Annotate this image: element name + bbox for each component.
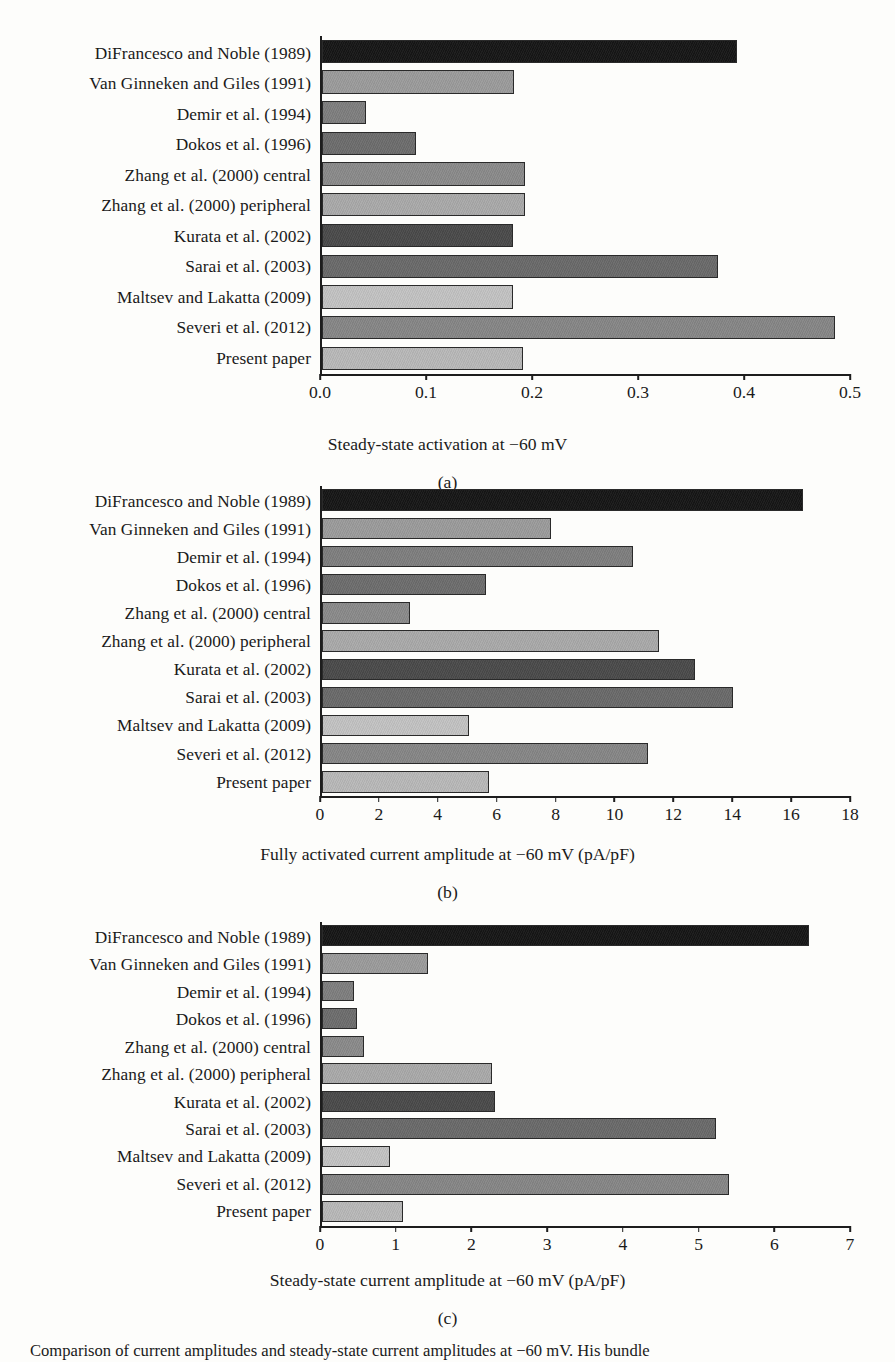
bar-row (322, 1115, 850, 1143)
axis-tick (378, 796, 380, 802)
axis-tick-label: 0.1 (415, 382, 437, 403)
bar-row (322, 542, 850, 570)
category-label: Zhang et al. (2000) central (0, 1034, 320, 1061)
bar-row (322, 712, 850, 740)
axis-tick (496, 796, 498, 802)
category-label: Kurata et al. (2002) (0, 656, 320, 684)
category-labels-b: DiFrancesco and Noble (1989)Van Ginneken… (0, 486, 320, 796)
axis-tick (471, 1226, 473, 1232)
category-label: Dokos et al. (1996) (0, 1006, 320, 1033)
bar-row (322, 67, 850, 98)
bar-row (322, 1005, 850, 1033)
axis-tick (743, 374, 745, 380)
category-label: Zhang et al. (2000) peripheral (0, 191, 320, 222)
category-label: Zhang et al. (2000) peripheral (0, 1061, 320, 1088)
bar (322, 347, 523, 370)
axis-tick-label: 3 (543, 1234, 552, 1255)
category-label: DiFrancesco and Noble (1989) (0, 924, 320, 951)
bar-row (322, 627, 850, 655)
axis-tick (395, 1226, 397, 1232)
bar (322, 1118, 716, 1139)
bar (322, 101, 366, 124)
bar (322, 953, 428, 974)
chart-a: DiFrancesco and Noble (1989)Van Ginneken… (0, 36, 895, 408)
bar-row (322, 343, 850, 374)
category-label: Dokos et al. (1996) (0, 572, 320, 600)
bar (322, 70, 514, 93)
axis-tick-label: 16 (782, 804, 800, 825)
axis-tick (773, 1226, 775, 1232)
axis-tick (614, 796, 616, 802)
figure-caption: Comparison of current amplitudes and ste… (30, 1340, 875, 1360)
category-label: Demir et al. (1994) (0, 99, 320, 130)
axis-tick (319, 796, 321, 802)
bar (322, 771, 489, 792)
bar-row (322, 740, 850, 768)
bar-row (322, 189, 850, 220)
axis-line (320, 796, 850, 798)
bar-area-c (320, 922, 850, 1226)
axis-tick-label: 2 (467, 1234, 476, 1255)
panel-b: DiFrancesco and Noble (1989)Van Ginneken… (0, 486, 895, 926)
panel-caption-b: (b) (0, 882, 895, 903)
bar-row (322, 571, 850, 599)
bar-row (322, 1170, 850, 1198)
axis-tick-label: 0.5 (839, 382, 861, 403)
bar (322, 1146, 390, 1167)
category-label: Van Ginneken and Giles (1991) (0, 516, 320, 544)
bar-row (322, 312, 850, 343)
bar (322, 489, 803, 510)
axis-tick (437, 796, 439, 802)
bar (322, 316, 835, 339)
bar (322, 925, 809, 946)
chart-b: DiFrancesco and Noble (1989)Van Ginneken… (0, 486, 895, 830)
axis-tick (790, 796, 792, 802)
panel-c: DiFrancesco and Noble (1989)Van Ginneken… (0, 922, 895, 1352)
category-label: Kurata et al. (2002) (0, 221, 320, 252)
bar (322, 1063, 492, 1084)
category-label: Demir et al. (1994) (0, 979, 320, 1006)
axis-tick-label: 14 (723, 804, 741, 825)
category-label: DiFrancesco and Noble (1989) (0, 488, 320, 516)
axis-tick-label: 5 (694, 1234, 703, 1255)
bar (322, 659, 695, 680)
category-label: Zhang et al. (2000) central (0, 160, 320, 191)
category-label: Maltsev and Lakatta (2009) (0, 1143, 320, 1170)
bar (322, 630, 659, 651)
bar-row (322, 977, 850, 1005)
category-label: Maltsev and Lakatta (2009) (0, 282, 320, 313)
axis-tick-label: 0.0 (309, 382, 331, 403)
category-label: Demir et al. (1994) (0, 544, 320, 572)
category-label: Severi et al. (2012) (0, 1171, 320, 1198)
axis-tick (555, 796, 557, 802)
bar (322, 574, 486, 595)
bar-row (322, 220, 850, 251)
bar-row (322, 1032, 850, 1060)
category-label: Severi et al. (2012) (0, 313, 320, 344)
axis-tick-label: 0.2 (521, 382, 543, 403)
category-label: Zhang et al. (2000) central (0, 600, 320, 628)
bar-row (322, 599, 850, 627)
category-label: Present paper (0, 1198, 320, 1225)
axis-tick (731, 796, 733, 802)
category-label: Van Ginneken and Giles (1991) (0, 951, 320, 978)
axis-tick-label: 2 (374, 804, 383, 825)
bar (322, 602, 410, 623)
bar (322, 255, 718, 278)
bar (322, 981, 354, 1002)
bar-row (322, 486, 850, 514)
axis-tick-label: 0.4 (733, 382, 755, 403)
bar (322, 1036, 364, 1057)
chart-c: DiFrancesco and Noble (1989)Van Ginneken… (0, 922, 895, 1260)
bar (322, 715, 469, 736)
axis-tick (425, 374, 427, 380)
axis-tick (849, 374, 851, 380)
axis-tick (673, 796, 675, 802)
axis-tick-label: 0 (316, 1234, 325, 1255)
axis-tick-label: 10 (606, 804, 624, 825)
bar-row (322, 768, 850, 796)
category-label: Sarai et al. (2003) (0, 1116, 320, 1143)
category-label: Present paper (0, 343, 320, 374)
axis-tick-label: 8 (551, 804, 560, 825)
axis-tick (637, 374, 639, 380)
